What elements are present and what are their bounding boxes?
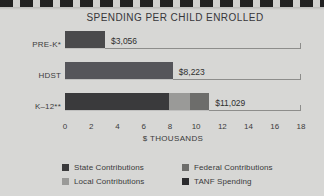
x-tick-label: 4 [115, 122, 119, 131]
x-tick-label: 18 [297, 122, 306, 131]
legend-label: State Contributions [74, 163, 144, 172]
bar-hdst [65, 62, 173, 79]
legend-swatch-icon [182, 164, 189, 171]
legend-label: Federal Contributions [194, 163, 273, 172]
x-axis-ticks: 024681012141618 [65, 122, 301, 134]
plot-area: PRE-K* $3,056 HDST $8,223 K–12** $11,029 [65, 26, 301, 122]
bar-row-pre-k: PRE-K* $3,056 [65, 26, 301, 52]
page-edge-artifact [0, 0, 324, 7]
row-baseline [65, 110, 301, 111]
row-end-tick [300, 74, 301, 80]
x-tick-label: 2 [89, 122, 93, 131]
x-tick-label: 6 [141, 122, 145, 131]
bar-segment [190, 93, 210, 110]
category-label-hdst: HDST [5, 71, 61, 80]
bar-row-hdst: HDST $8,223 [65, 57, 301, 83]
chart-title: SPENDING PER CHILD ENROLLED [0, 12, 324, 23]
legend-item[interactable]: Local Contributions [62, 177, 182, 186]
x-tick-label: 16 [270, 122, 279, 131]
x-tick-label: 8 [168, 122, 172, 131]
bar-k-12 [65, 93, 209, 110]
value-label-hdst: $8,223 [179, 67, 205, 77]
legend-swatch-icon [182, 178, 189, 185]
chart-page: SPENDING PER CHILD ENROLLED PRE-K* $3,05… [0, 0, 324, 196]
category-label-k-12: K–12** [5, 102, 61, 111]
x-tick-label: 14 [244, 122, 253, 131]
legend-item[interactable]: Federal Contributions [182, 163, 312, 172]
row-end-tick [300, 105, 301, 111]
legend-item[interactable]: State Contributions [62, 163, 182, 172]
bar-segment [169, 93, 190, 110]
x-tick-label: 10 [192, 122, 201, 131]
chart-legend: State ContributionsFederal Contributions… [62, 163, 312, 186]
row-end-tick [300, 43, 301, 49]
x-tick-label: 12 [218, 122, 227, 131]
row-baseline [65, 48, 301, 49]
bar-pre-k [65, 31, 105, 48]
bar-segment [65, 31, 105, 48]
bar-row-k-12: K–12** $11,029 [65, 88, 301, 114]
x-tick-label: 0 [63, 122, 67, 131]
legend-swatch-icon [62, 178, 69, 185]
bar-segment [65, 62, 173, 79]
value-label-k-12: $11,029 [215, 98, 245, 108]
value-label-pre-k: $3,056 [111, 36, 137, 46]
page-edge-shadow [0, 7, 324, 10]
legend-label: TANF Spending [194, 177, 252, 186]
x-axis-title: $ THOUSANDS [0, 134, 324, 143]
bar-segment [65, 93, 169, 110]
legend-item[interactable]: TANF Spending [182, 177, 312, 186]
row-baseline [65, 79, 301, 80]
legend-label: Local Contributions [74, 177, 144, 186]
category-label-pre-k: PRE-K* [5, 40, 61, 49]
legend-swatch-icon [62, 164, 69, 171]
